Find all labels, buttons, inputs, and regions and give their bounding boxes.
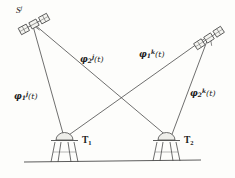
tower-leg (176, 142, 180, 161)
ground-station-t2 (153, 133, 180, 161)
satellite-k-icon (194, 26, 227, 53)
tower-leg (160, 142, 163, 161)
signal-path-phi-2-j (35, 25, 168, 137)
label-phi-1-j: φ1j(t) (14, 91, 38, 101)
station-t2-label: T2 (184, 136, 194, 146)
label-phi-2-k: φ2k(t) (190, 88, 216, 98)
label-phi-2-j: φ2j(t) (80, 54, 104, 64)
tower-leg (170, 142, 173, 161)
station-t1-label: T1 (82, 136, 92, 146)
ground-line (24, 160, 201, 162)
label-phi-1-k: φ1k(t) (139, 49, 165, 59)
satellite-j-label: Sj (16, 5, 22, 15)
signal-path-phi-1-j (33, 26, 64, 137)
tower-leg (153, 142, 157, 161)
ground-station-t1 (51, 133, 78, 162)
